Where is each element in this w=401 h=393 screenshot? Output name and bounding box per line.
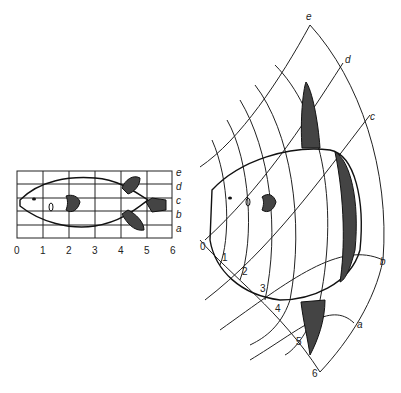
- svg-text:a: a: [357, 319, 363, 330]
- svg-text:5: 5: [144, 245, 150, 256]
- svg-text:1: 1: [40, 245, 46, 256]
- svg-text:2: 2: [66, 245, 72, 256]
- left-y-labels: a b c d e: [176, 167, 182, 234]
- svg-text:e: e: [176, 167, 182, 178]
- svg-text:a: a: [176, 223, 182, 234]
- svg-text:3: 3: [92, 245, 98, 256]
- svg-text:2: 2: [242, 266, 248, 277]
- svg-text:e: e: [306, 11, 312, 22]
- svg-text:4: 4: [118, 245, 124, 256]
- svg-text:d: d: [176, 181, 182, 192]
- svg-text:5: 5: [296, 336, 302, 347]
- left-fish: [20, 177, 166, 231]
- svg-text:6: 6: [312, 368, 318, 379]
- svg-text:c: c: [370, 111, 375, 122]
- svg-text:0: 0: [200, 241, 206, 252]
- svg-text:3: 3: [260, 283, 266, 294]
- left-x-labels: 0 1 2 3 4 5 6: [14, 245, 176, 256]
- svg-text:b: b: [380, 256, 386, 267]
- right-fish: [210, 82, 361, 355]
- svg-text:d: d: [345, 54, 351, 65]
- svg-text:c: c: [176, 195, 181, 206]
- svg-text:4: 4: [275, 303, 281, 314]
- svg-text:6: 6: [170, 245, 176, 256]
- svg-text:0: 0: [14, 245, 20, 256]
- svg-text:1: 1: [222, 252, 228, 263]
- svg-text:b: b: [176, 209, 182, 220]
- diagram-canvas: 0 1 2 3 4 5 6 a b c d e 0: [0, 0, 401, 393]
